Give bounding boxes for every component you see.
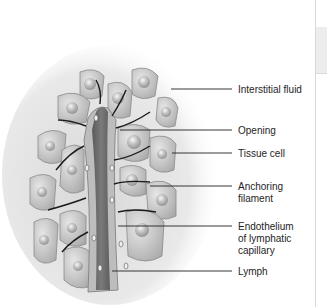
label-text: Endothelium <box>238 221 294 233</box>
label-tissue-cell: Tissue cell <box>238 148 285 160</box>
label-interstitial-fluid: Interstitial fluid <box>238 84 302 96</box>
label-endothelium: Endothelium of lymphatic capillary <box>238 221 294 257</box>
label-text: of lymphatic <box>238 233 294 245</box>
label-text: Tissue cell <box>238 148 285 160</box>
label-text: Anchoring <box>238 181 283 193</box>
side-panel-header <box>316 27 327 74</box>
label-text: capillary <box>238 245 294 257</box>
label-lymph: Lymph <box>238 266 268 278</box>
label-text: Lymph <box>238 266 268 278</box>
label-opening: Opening <box>238 125 276 137</box>
label-text: Opening <box>238 125 276 137</box>
label-text: Interstitial fluid <box>238 84 302 96</box>
label-anchoring-filament: Anchoring filament <box>238 181 283 205</box>
label-text: filament <box>238 193 283 205</box>
